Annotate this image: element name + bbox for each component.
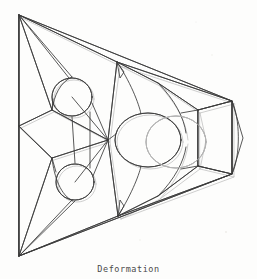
figure-caption: Deformation [97,264,159,274]
speckle [195,21,196,22]
deformation-figure: Deformation [0,0,257,279]
speckle [225,231,227,233]
speckle [44,231,45,232]
speckle [211,54,212,55]
caption-area: Deformation [0,258,257,279]
speckle [139,239,140,240]
deformed-mesh-drawing [0,0,257,279]
